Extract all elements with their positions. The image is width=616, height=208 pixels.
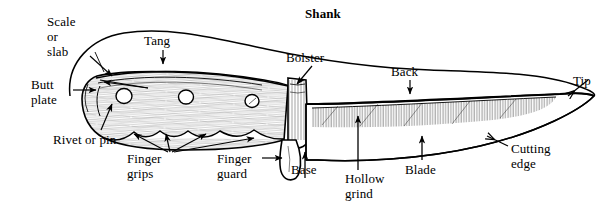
label-back: Back (391, 64, 418, 79)
label-base: Base (291, 162, 317, 177)
label-butt-plate: Butt plate (31, 77, 57, 107)
label-tang: Tang (144, 33, 170, 48)
label-blade: Blade (405, 162, 436, 177)
knife-anatomy-figure: Shank Scale or slab Tang Bolster Back Ti… (0, 0, 616, 208)
label-scale-or-slab: Scale or slab (47, 14, 76, 59)
label-shank: Shank (305, 6, 341, 21)
label-rivet-or-pin: Rivet or pin (53, 132, 116, 147)
label-finger-guard: Finger guard (217, 151, 252, 181)
bolster (288, 78, 308, 148)
label-bolster: Bolster (286, 50, 324, 65)
label-hollow-grind: Hollow grind (345, 171, 385, 201)
label-finger-grips: Finger grips (127, 151, 162, 181)
label-tip: Tip (573, 73, 591, 88)
label-cutting-edge: Cutting edge (511, 141, 551, 171)
